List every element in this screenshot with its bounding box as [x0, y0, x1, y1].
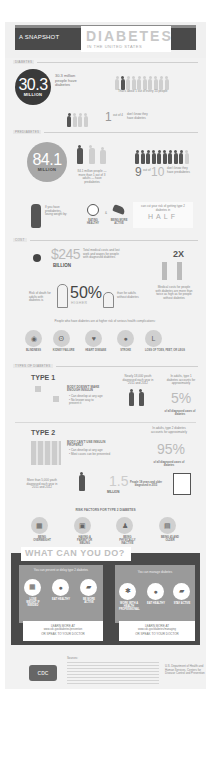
- couch-icon: ♟: [116, 517, 133, 534]
- unaware-text: don't know they have diabetes: [127, 113, 153, 120]
- manage-panel: You can manage diabetes ✱WORK WITH A HEA…: [115, 565, 195, 623]
- complication-amputation: LLOSS OF TOES, FEET, OR LEGS: [145, 330, 185, 352]
- cdc-logo: CDC: [29, 665, 57, 681]
- insulin-cell-icon: [53, 396, 59, 402]
- cost-section: $245 BILLION Total medical costs and los…: [5, 244, 206, 354]
- ratio-text: don't know they have prediabetes: [167, 167, 195, 174]
- complication-heart: ♥HEART DISEASE: [85, 330, 106, 352]
- agency-text: U.S. Department of Health and Human Serv…: [165, 665, 205, 676]
- multiplier: 2X: [173, 249, 184, 259]
- person-weight-icon: [31, 204, 41, 228]
- child-ball-icon: [79, 475, 87, 495]
- cut-risk-box: can cut your risk of getting type 2 diab…: [133, 202, 193, 228]
- type1-section: TYPE 1 BODY DOESN'T MAKE ENOUGH INSULIN …: [5, 370, 206, 422]
- complication-blindness: ◉BLINDNESS: [25, 330, 42, 352]
- kids-icon: [129, 392, 145, 410]
- diabetes-count-circle: 30.3 MILLION: [15, 69, 51, 105]
- cost-amount: $245: [51, 246, 80, 262]
- manage-learn-more[interactable]: LEARN MORE AT www.cdc.gov/diabetes/manag…: [119, 621, 195, 641]
- caduceus-icon: ✱: [119, 583, 136, 600]
- page-title: DIABETES: [86, 28, 173, 44]
- ratio-number: 9: [135, 165, 142, 179]
- type1-youth-text: Nearly 18,000 youth diagnosed each year …: [119, 375, 157, 386]
- prediabetes-stat-text: 84.1 million people — more than 1 out of…: [75, 170, 109, 184]
- clipboard-icon: [173, 473, 191, 495]
- footer: CDC Sources: U.S. Department of Health a…: [5, 645, 206, 689]
- shoe-icon: ▰: [80, 579, 97, 596]
- people-1-in-4-icon: [67, 113, 89, 131]
- what-can-you-do-section: WHAT CAN YOU DO? You can prevent or dela…: [11, 553, 200, 645]
- diabetes-section: 30.3 MILLION 30.3 million people have di…: [5, 66, 206, 128]
- coin-icon: [33, 254, 41, 262]
- type1-headline: BODY DOESN'T MAKE ENOUGH INSULIN: [67, 386, 107, 392]
- complication-kidney: ʘKIDNEY FAILURE: [53, 330, 75, 352]
- half-word: HALF: [133, 213, 193, 220]
- complications-intro: People who have diabetes are at higher r…: [19, 320, 191, 324]
- apple-icon: ●: [147, 583, 164, 600]
- adults-number: 1.5: [109, 473, 128, 489]
- type2-title: TYPE 2: [31, 429, 55, 436]
- risk-inactive: ♟BEING PHYSICALLY INACTIVE: [116, 517, 138, 545]
- puzzle-icon: [31, 441, 61, 465]
- risk-factors-section: RISK FACTORS FOR TYPE 2 DIABETES ▦BEING …: [5, 503, 206, 553]
- diabetes-stat-text: 30.3 million people have diabetes: [55, 74, 77, 88]
- page-subtitle: IN THE UNITED STATES: [87, 44, 142, 49]
- type2-section: TYPE 2 BODY CAN'T USE INSULIN PROPERLY •…: [5, 423, 206, 503]
- prevent-learn-more[interactable]: LEARN MORE AT www.cdc.gov/diabetes/preve…: [23, 621, 103, 641]
- scale-icon: ▦: [31, 517, 48, 534]
- pill-bottle-icon: [162, 262, 167, 280]
- complications-list: ◉BLINDNESS ʘKIDNEY FAILURE ♥HEART DISEAS…: [25, 330, 185, 352]
- section-label-prediabetes: PREDIABETES: [13, 128, 198, 136]
- eye-icon: ◉: [25, 330, 42, 347]
- type1-title: TYPE 1: [31, 374, 55, 381]
- tombstone-icon: [57, 284, 68, 308]
- section-label-types: TYPES OF DIABETES: [13, 362, 198, 370]
- death-percent: 50%: [70, 284, 102, 302]
- complication-stroke: ●STROKE: [117, 330, 134, 352]
- type2-youth-text: More than 5,000 youth diagnosed each yea…: [25, 479, 59, 490]
- people-1-in-3-icon: [77, 148, 108, 168]
- scale-icon: ▦: [24, 579, 41, 596]
- prediabetes-section: 84.1 MILLION 84.1 million people — more …: [5, 136, 206, 236]
- apple-icon: [87, 204, 99, 216]
- header-banner: A SNAPSHOT DIABETES IN THE UNITED STATES: [5, 22, 206, 58]
- header-kicker: A SNAPSHOT: [19, 34, 59, 40]
- brain-icon: ●: [117, 330, 134, 347]
- prevent-panel: You can prevent or delay type 2 diabetes…: [19, 565, 103, 623]
- risk-family: ▣HAVING A PARENT OR SIBLING: [74, 517, 96, 545]
- what-title: WHAT CAN YOU DO?: [25, 548, 125, 558]
- death-text-right: than for adults without diabetes: [117, 292, 139, 299]
- type2-share: 95%: [157, 441, 185, 457]
- risk-age: ▤BEING 45 AND OLDER: [159, 517, 181, 545]
- cost-text: Total medical costs and lost work and wa…: [83, 249, 123, 260]
- unaware-number: 1: [105, 110, 112, 124]
- family-photo-icon: ▣: [74, 517, 91, 534]
- shoe-icon: ▰: [173, 583, 190, 600]
- insulin-cell-icon: [35, 386, 41, 392]
- pill-bottle-icon: [177, 262, 182, 280]
- risk-overweight: ▦BEING OVERWEIGHT: [31, 517, 53, 545]
- tombstone-small-icon: [103, 292, 114, 308]
- foot-icon: L: [145, 330, 162, 347]
- apple-icon: ●: [52, 579, 69, 596]
- people-caption: That's about 1 out of every 10 people: [118, 90, 167, 94]
- kidney-icon: ʘ: [53, 330, 70, 347]
- section-label-cost: COST: [13, 236, 198, 244]
- type1-share: 5%: [171, 390, 191, 406]
- calendar-icon: ▤: [159, 517, 176, 534]
- medical-cost-text: Medical costs for people with diabetes a…: [155, 286, 193, 300]
- type2-headline: BODY CAN'T USE INSULIN PROPERLY: [67, 441, 107, 447]
- section-label-diabetes: DIABETES: [13, 58, 198, 66]
- shoe-icon: [112, 204, 126, 215]
- sources-text: [67, 662, 159, 686]
- risk-title: RISK FACTORS FOR TYPE 2 DIABETES: [5, 509, 206, 512]
- weight-text: If you have prediabetes, losing weight b…: [45, 206, 69, 217]
- risk-factor-list: ▦BEING OVERWEIGHT ▣HAVING A PARENT OR SI…: [31, 517, 181, 545]
- heart-icon: ♥: [85, 330, 102, 347]
- infographic: A SNAPSHOT DIABETES IN THE UNITED STATES…: [5, 0, 206, 689]
- death-text-left: Risk of death for adults with diabetes i…: [29, 292, 53, 303]
- prediabetes-count-circle: 84.1 MILLION: [27, 142, 67, 182]
